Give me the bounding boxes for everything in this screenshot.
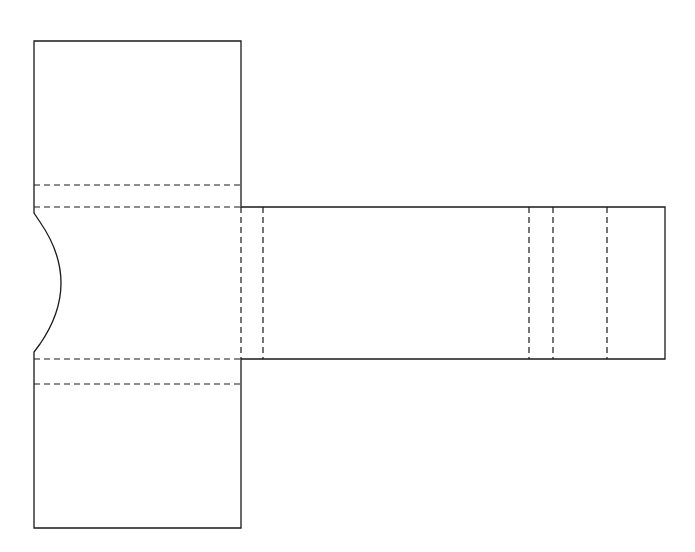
outer-cut-line: [34, 41, 665, 528]
dieline-diagram: [0, 0, 695, 552]
